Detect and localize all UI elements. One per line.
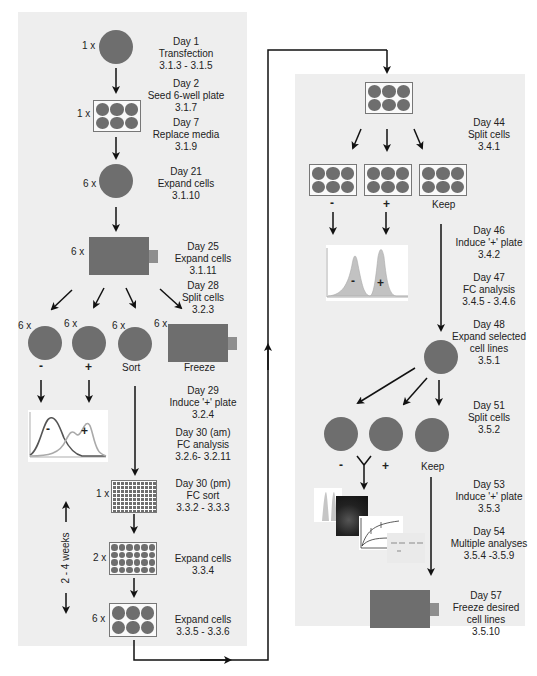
multiplier-plate6b: 6 x	[92, 613, 105, 624]
step-action: Freeze desired	[441, 602, 531, 614]
step-day28: Day 28Split cells3.2.3	[163, 280, 243, 316]
step-action: Expand cells	[163, 253, 243, 265]
step-ref: 3.5.10	[441, 626, 531, 638]
plate-keep	[419, 164, 467, 196]
step-day: Day 51	[449, 400, 529, 412]
freeze-flask	[168, 324, 228, 362]
hist-minus: -	[46, 422, 50, 436]
flask-cap	[149, 250, 158, 263]
step-day30pm: Day 30 (pm)FC sort3.3.2 - 3.3.3	[163, 478, 243, 514]
split-label-minus: -	[339, 458, 343, 472]
step-action: Expand cells	[146, 178, 226, 190]
step-action: Seed 6-well plate	[141, 90, 231, 102]
step-ref: 3.4.5 - 3.4.6	[449, 296, 529, 308]
step-day: Day 47	[449, 272, 529, 284]
dish-minus	[28, 326, 62, 360]
step-day: Day 48	[444, 319, 534, 331]
step-day: Day 7	[141, 117, 231, 129]
step-ref: 3.5.3	[449, 503, 529, 515]
step-ref: 3.3.4	[163, 565, 243, 577]
label-sort: Sort	[122, 362, 140, 374]
step-day: Day 53	[449, 479, 529, 491]
multiplier-plate96: 1 x	[96, 488, 109, 499]
duration-label: 2 - 4 weeks	[60, 532, 72, 584]
culture-flask	[89, 237, 149, 275]
split-dish-minus	[324, 417, 358, 451]
step-action: Induce '+' plate	[449, 237, 529, 249]
plate-label-plus: +	[383, 197, 390, 211]
step-day: Day 46	[449, 225, 529, 237]
step-day: Day 29	[163, 385, 243, 397]
step-day21: Day 21Expand cells3.1.10	[146, 166, 226, 202]
step-day: Day 30 (am)	[163, 427, 243, 439]
step-day30am: Day 30 (am)FC analysis3.2.6- 3.2.11	[163, 427, 243, 463]
multiplier-split-minus: 6 x	[18, 320, 31, 331]
multiplier-flask: 6 x	[71, 246, 84, 257]
step-ref: 3.4.2	[449, 249, 529, 261]
step-day: Day 30 (pm)	[163, 478, 243, 490]
split-label-plus: +	[382, 459, 389, 473]
step-day47: Day 47FC analysis3.4.5 - 3.4.6	[449, 272, 529, 308]
step-action: Expand selected	[444, 331, 534, 343]
plate-minus	[309, 164, 357, 196]
twenty-four-well-plate	[109, 542, 157, 575]
plate-plus	[364, 164, 412, 196]
plate-label-minus: -	[330, 196, 334, 210]
step-ref: 3.3.2 - 3.3.3	[163, 502, 243, 514]
dish-plus	[72, 326, 106, 360]
step-action-2: cell lines	[441, 614, 531, 626]
step-action: Replace media	[141, 129, 231, 141]
step-expand-335: Expand cells3.3.5 - 3.3.6	[163, 614, 243, 638]
step-day54: Day 54Multiple analyses3.5.4 -3.5.9	[444, 526, 534, 562]
label-freeze: Freeze	[184, 362, 215, 374]
multiplier-split-freeze: 6 x	[154, 318, 167, 329]
right-freeze-flask-cap	[430, 603, 439, 616]
step-ref: 3.5.1	[444, 355, 534, 367]
six-well-plate-final	[109, 603, 157, 637]
step-ref: 3.5.2	[449, 424, 529, 436]
step-ref: 3.1.3 - 3.1.5	[146, 60, 226, 72]
fc-histogram-left: - +	[28, 410, 108, 462]
step-day7: Day 7Replace media3.1.9	[141, 117, 231, 153]
step-day29: Day 29Induce '+' plate3.2.4	[163, 385, 243, 421]
step-action: Induce '+' plate	[163, 397, 243, 409]
step-day1: Day 1Transfection3.1.3 - 3.1.5	[146, 36, 226, 72]
ninety-six-well-plate	[111, 480, 157, 513]
step-day: Day 57	[441, 590, 531, 602]
step-ref: 3.1.10	[146, 190, 226, 202]
split-dish-plus	[369, 417, 403, 451]
step-day2: Day 2Seed 6-well plate3.1.7	[141, 78, 231, 114]
step-ref: 3.1.9	[141, 141, 231, 153]
plate-label-keep: Keep	[432, 199, 455, 211]
step-ref: 3.2.6- 3.2.11	[163, 451, 243, 463]
multiplier-split-sort: 6 x	[112, 320, 125, 331]
step-action: Split cells	[163, 292, 243, 304]
multiplier-dish1: 1 x	[82, 40, 95, 51]
multiplier-dish2: 6 x	[83, 178, 96, 189]
step-action: Induce '+' plate	[449, 491, 529, 503]
hist-right-minus: -	[351, 274, 355, 288]
step-action: FC analysis	[449, 284, 529, 296]
step-ref: 3.2.4	[163, 409, 243, 421]
step-day51: Day 51Split cells3.5.2	[449, 400, 529, 436]
step-day48: Day 48Expand selectedcell lines3.5.1	[444, 319, 534, 367]
culture-dish-1	[99, 30, 133, 64]
step-action: Expand cells	[163, 553, 243, 565]
dish-sort	[118, 327, 152, 361]
hist-right-plus: +	[377, 276, 384, 290]
step-day46: Day 46Induce '+' plate3.4.2	[449, 225, 529, 261]
freeze-flask-cap	[228, 337, 237, 350]
step-day25: Day 25Expand cells3.1.11	[163, 241, 243, 277]
step-day: Day 44	[449, 117, 529, 129]
step-ref: 3.1.7	[141, 102, 231, 114]
step-day44: Day 44Split cells3.4.1	[449, 117, 529, 153]
step-action: Split cells	[449, 129, 529, 141]
step-action: Multiple analyses	[444, 538, 534, 550]
culture-dish-2	[99, 164, 133, 198]
fc-histogram-right: - +	[326, 245, 408, 301]
split-label-keep: Keep	[421, 461, 444, 473]
step-ref: 3.4.1	[449, 141, 529, 153]
step-action: FC analysis	[163, 439, 243, 451]
split-dish-keep	[415, 418, 449, 452]
label-plus: +	[85, 360, 92, 374]
